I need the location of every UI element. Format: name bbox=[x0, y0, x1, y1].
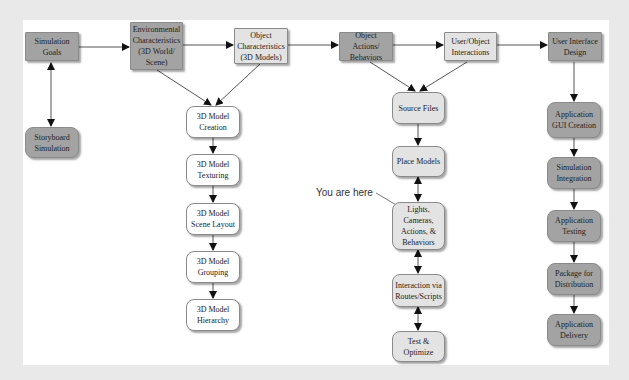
node-object-actions-behaviors: Object Actions/ Behaviors bbox=[339, 32, 393, 61]
node-application-delivery: Application Delivery bbox=[547, 314, 601, 346]
node-storyboard-simulation: Storyboard Simulation bbox=[25, 127, 79, 158]
node-environmental-characteristics: Environmental Characteristics (3D World/… bbox=[130, 22, 183, 70]
node-source-files: Source Files bbox=[392, 92, 445, 124]
node-object-characteristics: Object Characteristics (3D Models) bbox=[234, 28, 288, 64]
node-3d-model-scene-layout: 3D Model Scene Layout bbox=[186, 203, 240, 235]
you-are-here-callout: You are here bbox=[316, 187, 373, 198]
node-simulation-goals: Simulation Goals bbox=[25, 32, 79, 61]
node-place-models: Place Models bbox=[392, 146, 445, 177]
node-3d-model-texturing: 3D Model Texturing bbox=[186, 154, 240, 186]
node-package-for-distribution: Package for Distribution bbox=[547, 263, 601, 295]
node-test-optimize: Test & Optimize bbox=[392, 331, 445, 362]
node-user-interface-design: User Interface Design bbox=[548, 32, 602, 61]
node-user-object-interactions: User/Object Interactions bbox=[444, 32, 497, 61]
node-3d-model-creation: 3D Model Creation bbox=[186, 106, 240, 138]
node-simulation-integration: Simulation Integration bbox=[547, 157, 601, 189]
node-3d-model-hierarchy: 3D Model Hierarchy bbox=[186, 299, 240, 331]
node-application-testing: Application Testing bbox=[547, 210, 601, 242]
node-lights-cameras-actions-behaviors: Lights, Cameras, Actions, & Behaviors bbox=[392, 202, 445, 250]
node-3d-model-grouping: 3D Model Grouping bbox=[186, 251, 240, 283]
edges bbox=[0, 0, 629, 380]
node-interaction-routes-scripts: Interaction via Routes/Scripts bbox=[392, 274, 445, 307]
node-application-gui-creation: Application GUI Creation bbox=[547, 102, 601, 138]
